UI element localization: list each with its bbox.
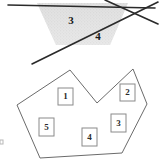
region-box-1-label: 1	[63, 91, 68, 101]
angle-label-4: 4	[95, 30, 101, 42]
region-box-2-label: 2	[125, 87, 130, 97]
region-box-3-label: 3	[116, 118, 121, 128]
region-box-4-label: 4	[87, 132, 92, 142]
region-box-4-group: 4	[82, 128, 97, 146]
region-box-3-group: 3	[111, 114, 126, 132]
geometry-figure: 3 4 1 2 3 4 5	[0, 0, 163, 168]
angle-label-3: 3	[68, 14, 74, 26]
bottom-diagram-group: 1 2 3 4 5	[17, 69, 147, 158]
region-box-5-group: 5	[39, 118, 54, 136]
region-box-5-label: 5	[44, 122, 49, 132]
figure-canvas: 3 4 1 2 3 4 5	[0, 0, 163, 168]
region-box-1-group: 1	[58, 88, 73, 105]
region-box-2-group: 2	[120, 84, 135, 101]
left-margin-tick	[0, 140, 3, 144]
top-diagram-group: 3 4	[8, 0, 158, 64]
